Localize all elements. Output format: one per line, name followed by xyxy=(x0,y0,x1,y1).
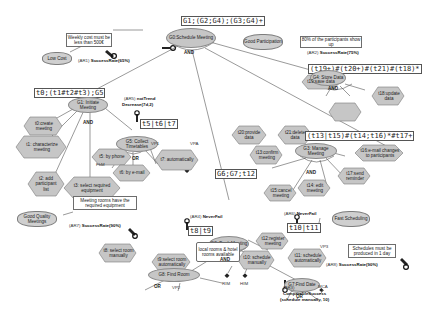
note-schedules-day: Schedules must be produced in 1 day xyxy=(348,244,396,258)
softgoal-low-cost[interactable]: Low Cost xyxy=(42,52,72,65)
softgoal-fast-scheduling[interactable]: Fast Scheduling xyxy=(332,211,370,227)
ar3-id: (AR3) xyxy=(283,285,294,290)
task-t8[interactable]: t8: select room manually xyxy=(103,245,134,261)
and-operator-g2: AND xyxy=(220,257,230,262)
task-t0[interactable]: t0:create meeting xyxy=(28,118,60,134)
task-t13[interactable]: t13:confirm meeting xyxy=(254,147,280,163)
note-participants: 80% of the participants show up xyxy=(300,36,362,48)
task-t16[interactable]: t16:e-mail changes to participants xyxy=(360,146,400,160)
ar3-detail: (schedule manually, 10) xyxy=(280,297,329,302)
task-t18[interactable]: t18:update data xyxy=(376,88,402,104)
or-operator-g5: OR xyxy=(132,156,139,161)
ar3-label: ComparableSuccess xyxy=(283,291,326,296)
task-t2[interactable]: t2: add participant list xyxy=(32,173,60,195)
ar8-label: (AR8) SuccessRate(90%) xyxy=(326,262,378,267)
ar5-detail: Decrease(7d,2) xyxy=(122,102,153,107)
and-operator-g1: AND xyxy=(83,120,93,125)
g2-expression: G6;G7;t12 xyxy=(215,169,257,179)
param-fhm: FhM xyxy=(96,162,105,167)
note-rooms-available: local rooms & hotel rooms available xyxy=(196,242,240,262)
param-rim: RIM xyxy=(222,281,230,286)
softgoal-good-quality[interactable]: Good Quality Meetings xyxy=(17,211,57,227)
g8-expression: t8|t9 xyxy=(188,226,213,236)
or-operator-g7: OR xyxy=(296,294,303,299)
task-t14[interactable]: t14: edit meeting xyxy=(302,181,328,195)
note-rooms-equipment: Meeting rooms have the required equipmen… xyxy=(73,196,137,210)
and-operator-g0: AND xyxy=(184,50,194,55)
and-operator-g3: AND xyxy=(306,170,316,175)
task-t20[interactable]: t20:provide data xyxy=(236,127,262,143)
goal-g1[interactable]: G1: Initiate Meeting xyxy=(68,97,108,113)
ar1-label: (AR1) SuccessRate(65%) xyxy=(78,58,130,63)
ar6-label: (AR6) NeverFail xyxy=(284,211,316,216)
g7-expression: t10|t11 xyxy=(287,223,321,233)
note-weekly-cost: Weekly cost must be less than 500€ xyxy=(66,33,112,47)
task-t21[interactable]: t21:delete data xyxy=(282,127,308,143)
ar5-label: (AR5) notTrend xyxy=(124,96,155,101)
goal-g0[interactable]: G0:Schedule Meeting xyxy=(166,28,216,48)
goal-g3[interactable]: G3: Manage Meeting xyxy=(295,143,337,159)
ar4-label: (AR4) NeverFail xyxy=(190,214,222,219)
task-t7[interactable]: t7: automatically xyxy=(158,151,196,169)
param-vp1: VP1 xyxy=(151,141,159,146)
task-t3[interactable]: t3: select required equipment xyxy=(72,178,112,198)
task-t11[interactable]: t11: schedule automatically xyxy=(292,250,324,266)
task-t9[interactable]: t9:select room automatically xyxy=(156,255,188,269)
param-him: HIM xyxy=(240,281,248,286)
param-vpa: VPA xyxy=(190,141,198,146)
softgoal-good-participation[interactable]: Good Participation xyxy=(243,34,283,50)
or-operator-g8: OR xyxy=(154,284,161,289)
task-t10[interactable]: t10: schedule manually xyxy=(242,252,272,268)
and-operator-g4: AND xyxy=(328,86,338,91)
task-t17[interactable]: t17:send reminder xyxy=(342,169,368,183)
task-t15[interactable]: t15:cancel meeting xyxy=(268,186,294,200)
task-t12[interactable]: t12:register meeting xyxy=(260,234,286,248)
param-vp2: VP2 xyxy=(172,285,180,290)
task-t6[interactable]: t6: by e-mail xyxy=(117,166,147,180)
param-mca: MCA xyxy=(318,284,328,289)
ar7-label: (AR7) SuccessRate(90%) xyxy=(69,223,121,228)
g5-expression: t5|t6|t7 xyxy=(140,119,178,129)
g0-expression: G1;(G2;G4);(G3;G4)+ xyxy=(181,16,265,26)
g3-expression: (t13|t15)#(t14;t16)*#t17+ xyxy=(305,131,414,141)
param-vp3: VP3 xyxy=(320,244,328,249)
goal-g8[interactable]: G8: Find Room xyxy=(148,268,200,282)
ar2-label: (AR2) SuccessRate(75%) xyxy=(307,50,359,55)
task-t1[interactable]: t1: characterize meeting xyxy=(22,137,62,157)
